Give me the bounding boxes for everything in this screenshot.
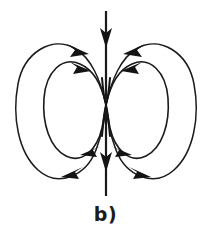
- left-inner-bottom-arrow-icon: [80, 146, 101, 157]
- left-outer-top-arrow-icon: [67, 44, 89, 57]
- right-inner-bottom-arrow-icon: [111, 146, 132, 157]
- figure-panel: b): [0, 0, 211, 241]
- right-outer-top-arrow-icon: [123, 44, 145, 57]
- right-outer-bottom-arrow-icon: [129, 167, 151, 179]
- panel-label: b): [0, 203, 211, 225]
- left-outer-bottom-arrow-icon: [61, 167, 83, 179]
